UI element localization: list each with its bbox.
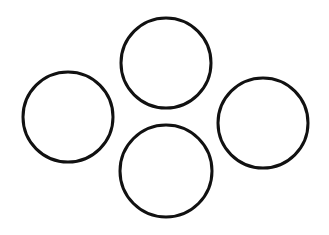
diagram-canvas [0,0,329,235]
top-circle [121,18,211,108]
left-circle [23,72,113,162]
right-circle [218,78,308,168]
bottom-circle [120,125,212,217]
